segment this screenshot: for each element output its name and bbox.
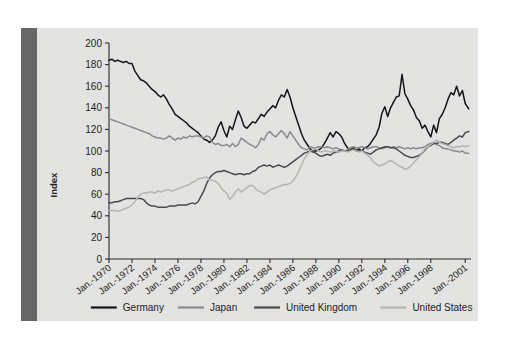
series-line-germany (109, 59, 469, 151)
series-line-united-states (109, 140, 469, 211)
y-tick-label: 180 (85, 59, 102, 70)
line-chart: 020406080100120140160180200IndexJan.-197… (37, 28, 478, 321)
x-tick-label: Jan.-2001 (429, 262, 469, 297)
chart-figure: 020406080100120140160180200IndexJan.-197… (21, 28, 478, 321)
y-tick-label: 20 (91, 232, 103, 243)
figure-left-spine-bar (21, 28, 37, 321)
y-tick-label: 200 (85, 38, 102, 49)
legend-label-japan: Japan (210, 302, 237, 313)
legend-label-united-states: United States (412, 302, 472, 313)
plot-container: 020406080100120140160180200IndexJan.-197… (37, 28, 478, 321)
legend-label-united-kingdom: United Kingdom (286, 302, 357, 313)
y-tick-label: 0 (96, 254, 102, 265)
y-tick-label: 80 (91, 167, 103, 178)
y-tick-label: 100 (85, 146, 102, 157)
series-line-japan (109, 119, 469, 154)
legend-label-germany: Germany (123, 302, 164, 313)
y-tick-label: 140 (85, 102, 102, 113)
series-line-united-kingdom (109, 132, 469, 208)
y-axis-title: Index (48, 172, 59, 198)
y-tick-label: 120 (85, 124, 102, 135)
y-tick-label: 60 (91, 189, 103, 200)
y-tick-label: 160 (85, 81, 102, 92)
y-tick-label: 40 (91, 210, 103, 221)
